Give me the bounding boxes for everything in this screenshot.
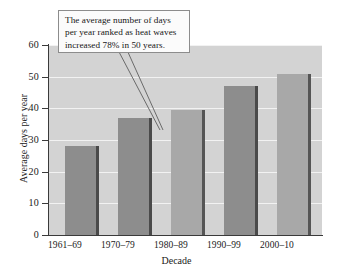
- y-tick-mark-30: [42, 140, 48, 141]
- plot-area: [48, 45, 322, 235]
- bar-side-shadow: [202, 110, 205, 235]
- x-tick-label-1980-89: 1980–89: [142, 240, 200, 251]
- y-tick-mark-10: [42, 203, 48, 204]
- y-tick-label-0: 0: [13, 230, 39, 240]
- bar-side-shadow: [308, 74, 311, 236]
- y-tick-mark-50: [42, 77, 48, 78]
- callout-line-2: per year ranked as heat waves: [65, 26, 184, 38]
- callout-annotation-text: The average number of days per year rank…: [65, 14, 184, 51]
- y-tick-mark-0: [42, 235, 48, 236]
- x-axis-title-text: Decade: [162, 255, 192, 266]
- bar-1980-89: [171, 110, 205, 235]
- y-tick-mark-20: [42, 172, 48, 173]
- bar-2000-10: [277, 74, 311, 236]
- y-tick-label-60: 60: [13, 40, 39, 50]
- x-axis-title: Decade: [0, 255, 339, 266]
- bar-face: [171, 110, 202, 235]
- bar-1970-79: [118, 118, 152, 235]
- x-tick-label-1970-79: 1970–79: [89, 240, 147, 251]
- bar-face: [65, 146, 96, 235]
- y-axis-line: [48, 44, 49, 236]
- bar-side-shadow: [96, 146, 99, 235]
- x-tick-label-1990-99: 1990–99: [195, 240, 253, 251]
- bar-1990-99: [224, 86, 258, 235]
- bar-face: [224, 86, 255, 235]
- bar-side-shadow: [149, 118, 152, 235]
- x-tick-label-2000-10: 2000–10: [248, 240, 306, 251]
- bar-1961-69: [65, 146, 99, 235]
- x-tick-label-1961-69: 1961–69: [36, 240, 94, 251]
- callout-line-3: increased 78% in 50 years.: [65, 39, 184, 51]
- callout-annotation-box: The average number of days per year rank…: [58, 10, 190, 53]
- bar-face: [118, 118, 149, 235]
- y-axis-title: Average days per year: [18, 69, 29, 209]
- y-tick-mark-40: [42, 108, 48, 109]
- x-axis-line: [48, 235, 323, 236]
- callout-line-1: The average number of days: [65, 14, 184, 26]
- bar-side-shadow: [255, 86, 258, 235]
- y-tick-mark-60: [42, 45, 48, 46]
- bar-face: [277, 74, 308, 236]
- bar-chart-figure: 60 50 40 30 20 10 0 1961–69 1970–79 1980…: [0, 0, 339, 274]
